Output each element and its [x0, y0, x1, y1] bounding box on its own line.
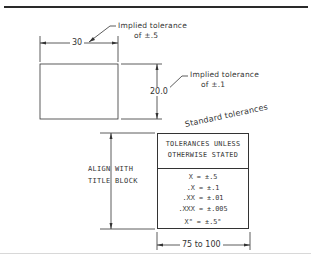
bottom-rule: [0, 253, 311, 254]
header-line2: OTHERWISE STATED: [158, 150, 248, 161]
tolerance-row: X° = ±.5°: [158, 217, 248, 228]
callout-1-line1: Implied tolerance: [118, 21, 187, 30]
tolerance-row: .XX = ±.01: [158, 193, 248, 204]
side-note-line1: ALIGN WITH: [88, 164, 133, 174]
side-note-line2: TITLE BLOCK: [88, 176, 138, 186]
callout-2-line2: of ±.1: [201, 80, 225, 89]
tolerance-block: TOLERANCES UNLESS OTHERWISE STATED X = ±…: [157, 133, 249, 229]
callout-1-line2: of ±.5: [134, 31, 158, 40]
tolerance-row: .XXX = ±.005: [158, 204, 248, 215]
tolerance-block-header: TOLERANCES UNLESS OTHERWISE STATED: [158, 134, 248, 169]
tolerance-rows: X = ±.5 .X = ±.1 .XX = ±.01 .XXX = ±.005…: [158, 172, 248, 228]
callout-2-line1: Implied tolerance: [190, 70, 259, 79]
part-rectangle: [40, 64, 118, 119]
height-dimension-value: 20.0: [148, 87, 170, 96]
tolerance-row: X = ±.5: [158, 172, 248, 183]
title-block-width-value: 75 to 100: [180, 240, 223, 249]
tolerance-row: .X = ±.1: [158, 183, 248, 194]
width-dimension-value: 30: [70, 38, 84, 47]
header-line1: TOLERANCES UNLESS: [158, 139, 248, 150]
